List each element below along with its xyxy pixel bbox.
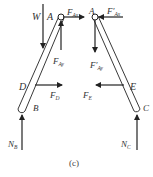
label-A-left: A bbox=[46, 11, 54, 22]
label-E: E bbox=[129, 81, 136, 92]
label-W: W bbox=[32, 11, 42, 22]
right-rod-AC bbox=[93, 16, 140, 112]
label-N-C: NC bbox=[120, 139, 131, 150]
label-F-Ay-prime: F′Ay bbox=[89, 60, 104, 71]
free-body-diagram: W A FAx FAy A F′Ax F′Ay D B FD FE E C NB… bbox=[0, 0, 153, 177]
label-B: B bbox=[33, 103, 39, 113]
label-F-Ax: FAx bbox=[66, 7, 79, 18]
label-C: C bbox=[143, 103, 150, 113]
label-F-D: FD bbox=[49, 90, 60, 101]
label-F-Ay: FAy bbox=[52, 56, 65, 67]
label-F-Ax-prime: F′Ax bbox=[106, 6, 121, 17]
label-D: D bbox=[18, 81, 27, 92]
label-F-E: FE bbox=[82, 90, 93, 101]
label-A-right: A bbox=[88, 6, 95, 16]
label-N-B: NB bbox=[7, 139, 18, 150]
figure-caption: (c) bbox=[69, 158, 79, 168]
